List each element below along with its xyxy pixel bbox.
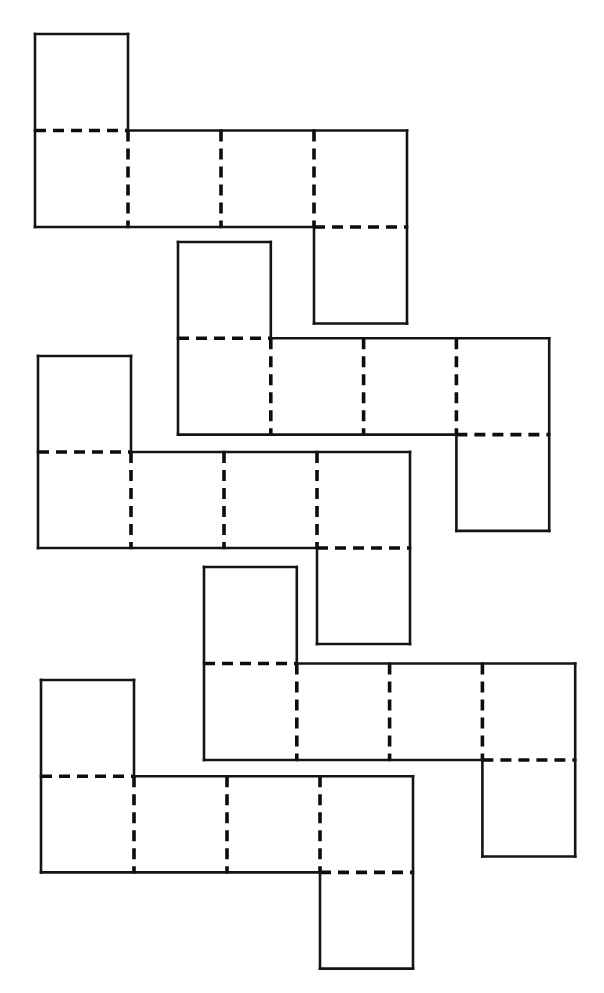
net-face xyxy=(314,131,407,228)
net-face xyxy=(128,131,221,228)
net-face xyxy=(38,452,131,548)
net-face xyxy=(204,664,297,761)
net-face xyxy=(35,131,128,228)
net-face xyxy=(482,664,575,761)
net-face xyxy=(271,338,364,434)
net-face xyxy=(41,680,134,776)
net-face xyxy=(38,356,131,452)
net-face xyxy=(297,664,390,761)
net-face xyxy=(456,338,549,434)
net-face xyxy=(482,760,575,857)
net-face xyxy=(131,452,224,548)
net-face xyxy=(178,338,271,434)
net-face xyxy=(317,452,410,548)
net-face xyxy=(320,872,413,968)
net-face xyxy=(134,776,227,872)
net-face xyxy=(227,776,320,872)
net-face xyxy=(320,776,413,872)
net-face xyxy=(317,548,410,644)
net-face xyxy=(41,776,134,872)
net-face xyxy=(364,338,457,434)
cube-nets-diagram xyxy=(0,0,604,993)
net-face xyxy=(204,567,297,664)
net-face xyxy=(221,131,314,228)
net-face xyxy=(35,34,128,131)
net-face xyxy=(178,242,271,338)
net-face xyxy=(314,227,407,324)
net-face xyxy=(224,452,317,548)
net-face xyxy=(456,435,549,531)
net-face xyxy=(390,664,483,761)
